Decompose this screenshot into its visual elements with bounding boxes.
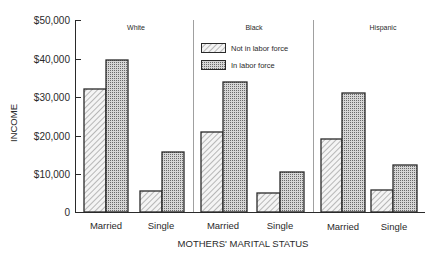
bar-black-married-in-labor [223,82,247,212]
bar-hispanic-married-in-labor [342,93,365,212]
income-bar-chart: INCOME $50,000 $40,000 $30,000 $20,000 $… [0,0,435,258]
y-tick-label: 0 [64,207,70,218]
category-label: Married [207,220,239,231]
bar-black-single-in-labor [280,172,304,212]
bar-white-single-in-labor [162,152,184,212]
y-tick-label: $10,000 [34,169,71,180]
bar-hispanic-single-in-labor [393,165,417,212]
group-label-hispanic: Hispanic [370,24,397,32]
bar-white-married-not-in-labor [84,89,106,212]
y-tick-label: $20,000 [34,131,71,142]
x-axis-title: MOTHERS' MARITAL STATUS [178,238,309,249]
group-label-black: Black [245,24,263,31]
y-axis-title: INCOME [8,104,19,142]
category-label: Single [267,220,293,231]
y-axis [75,20,81,213]
legend-label: In labor force [231,61,275,70]
bar-black-single-not-in-labor [257,193,280,212]
y-tick-label: $40,000 [34,54,71,65]
legend-swatch-not-in-labor-force [202,44,226,53]
y-tick-label: $50,000 [34,15,71,26]
legend: Not in labor force In labor force [202,44,289,71]
category-label: Single [381,221,407,232]
legend-swatch-in-labor-force [202,61,226,70]
bars [84,60,417,212]
y-tick-label: $30,000 [34,92,71,103]
bar-black-married-not-in-labor [201,132,223,212]
bar-hispanic-married-not-in-labor [321,139,342,212]
category-label: Married [90,220,122,231]
y-axis-ticks: $50,000 $40,000 $30,000 $20,000 $10,000 … [34,15,71,218]
bar-hispanic-single-not-in-labor [371,190,393,212]
category-label: Single [148,220,174,231]
group-label-white: White [127,24,145,31]
bar-white-married-in-labor [106,60,128,212]
x-category-labels: Married Single Married Single Married Si… [90,220,407,232]
legend-label: Not in labor force [231,44,288,53]
bar-white-single-not-in-labor [140,191,162,212]
category-label: Married [327,221,359,232]
